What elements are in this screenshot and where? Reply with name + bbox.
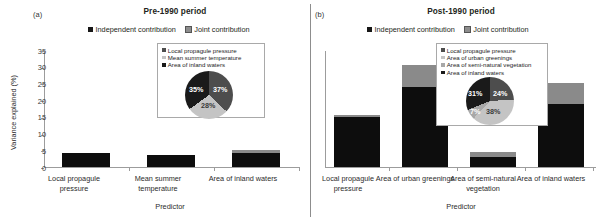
bar-segment-independent <box>147 155 195 167</box>
panel-b-pie-chart <box>466 77 514 125</box>
x-category-label-local-propagule-pressure: Local propagule pressure <box>34 174 114 193</box>
panel-b-inset-legend: Local propagule pressure Area of urban g… <box>441 47 531 77</box>
inset-legend-label-3: Area of inland waters <box>447 69 504 76</box>
inset-swatch-local-propagule-pressure-icon <box>441 48 445 52</box>
inset-swatch-local-propagule-pressure-icon <box>162 48 166 52</box>
pie-value-label-38: 38% <box>486 107 500 116</box>
bar-local-propagule-pressure <box>334 115 380 167</box>
x-category-label-area-of-inland-waters: Area of inland waters <box>511 174 591 184</box>
inset-legend-label-2: Area of semi-natural vegetation <box>447 61 532 68</box>
bar-segment-independent <box>334 117 380 167</box>
panel-a-inset-legend: Local propagule pressure Mean summer tem… <box>162 47 241 69</box>
panel-b-x-axis-title: Predictor <box>401 202 521 211</box>
panel-a-tag: (a) <box>33 10 42 19</box>
y-tick-label-10: 10 <box>30 130 46 139</box>
pie-value-label-24: 24% <box>493 89 507 98</box>
inset-legend-item-local-propagule-pressure: Local propagule pressure <box>441 47 531 54</box>
legend-swatch-joint-icon <box>464 26 471 33</box>
bar-area-of-inland-waters <box>232 150 280 167</box>
legend-label-joint: Joint contribution <box>473 25 528 34</box>
legend-label-joint: Joint contribution <box>194 25 249 34</box>
legend-swatch-independent-icon <box>88 27 93 32</box>
panel-a-inset: Local propagule pressure Mean summer tem… <box>157 43 265 118</box>
panel-b-title: Post-1990 period <box>396 7 526 16</box>
bar-segment-independent <box>470 157 516 167</box>
panel-b-inset: Local propagule pressure Area of urban g… <box>436 43 548 126</box>
inset-legend-item-area-of-urban-greenings: Area of urban greenings <box>441 54 531 61</box>
panel-a-pie-chart <box>185 71 233 119</box>
legend-swatch-independent-icon <box>367 27 372 32</box>
panel-b-tag: (b) <box>315 10 324 19</box>
legend-swatch-joint-icon <box>185 26 192 33</box>
legend-item-independent: Independent contribution <box>367 25 455 34</box>
inset-legend-label-1: Mean summer temperature <box>168 54 242 61</box>
pie-value-label-7: 7% <box>470 107 480 116</box>
panel-b-x-tick-2 <box>457 168 458 171</box>
inset-legend-label-1: Area of urban greenings <box>447 54 512 61</box>
bar-segment-independent <box>232 153 280 167</box>
y-tick-label-20: 20 <box>30 97 46 106</box>
panel-b-x-axis <box>325 167 596 168</box>
panel-b-x-tick-3 <box>525 168 526 171</box>
legend-item-joint: Joint contribution <box>185 25 250 34</box>
y-tick-label-0: 0 <box>30 164 46 173</box>
figure: (a) Pre-1990 period Independent contribu… <box>0 0 602 221</box>
panel-b-y-axis <box>325 51 326 168</box>
pie-value-label-28: 28% <box>201 101 215 110</box>
legend-item-independent: Independent contribution <box>88 25 176 34</box>
inset-swatch-area-of-inland-waters-icon <box>441 71 445 75</box>
pie-value-label-37: 37% <box>213 85 227 94</box>
panel-b-x-tick-1 <box>389 168 390 171</box>
y-tick-label-35: 35 <box>30 47 46 56</box>
panel-b-legend: Independent contribution Joint contribut… <box>367 25 529 34</box>
y-tick-label-30: 30 <box>30 63 46 72</box>
panel-a-x-tick-3 <box>299 168 300 171</box>
legend-item-joint: Joint contribution <box>464 25 529 34</box>
panel-b-x-tick-4 <box>593 168 594 171</box>
inset-legend-item-mean-summer-temperature: Mean summer temperature <box>162 54 241 61</box>
legend-label-independent: Independent contribution <box>375 25 455 34</box>
y-tick-label-5: 5 <box>30 147 46 156</box>
x-category-label-mean-summer-temperature: Mean summer temperature <box>118 174 198 193</box>
y-axis-title: Variance explained (%) <box>9 75 18 150</box>
inset-legend-label-0: Local propagule pressure <box>447 47 516 54</box>
panel-a-title: Pre-1990 period <box>115 7 235 16</box>
bar-local-propagule-pressure <box>62 153 110 167</box>
inset-legend-item-area-of-inland-waters: Area of inland waters <box>441 69 531 76</box>
inset-legend-item-area-of-semi-natural-vegetation: Area of semi-natural vegetation <box>441 61 531 68</box>
inset-swatch-mean-summer-temperature-icon <box>162 56 166 60</box>
panel-pre-1990: (a) Pre-1990 period Independent contribu… <box>0 0 311 221</box>
y-tick-label-15: 15 <box>30 113 46 122</box>
x-category-label-area-of-inland-waters: Area of inland waters <box>203 174 283 184</box>
bar-area-of-semi-natural-vegetation <box>470 152 516 167</box>
inset-swatch-area-of-urban-greenings-icon <box>441 56 445 60</box>
panel-a-x-tick-1 <box>129 168 130 171</box>
panel-a-legend: Independent contribution Joint contribut… <box>88 25 250 34</box>
inset-legend-label-2: Area of inland waters <box>168 61 225 68</box>
panel-a-x-axis-title: Predictor <box>105 202 235 211</box>
legend-label-independent: Independent contribution <box>96 25 176 34</box>
bar-mean-summer-temperature <box>147 155 195 167</box>
bar-segment-independent <box>62 153 110 167</box>
inset-swatch-area-of-semi-natural-vegetation-icon <box>441 63 445 67</box>
panel-a-x-tick-2 <box>214 168 215 171</box>
pie-value-label-35: 35% <box>189 85 203 94</box>
inset-swatch-area-of-inland-waters-icon <box>162 63 166 67</box>
pie-value-label-31: 31% <box>468 89 482 98</box>
panel-a-x-axis <box>44 167 300 168</box>
inset-legend-item-local-propagule-pressure: Local propagule pressure <box>162 47 241 54</box>
panel-post-1990: (b) Post-1990 period Independent contrib… <box>311 0 602 221</box>
y-tick-label-25: 25 <box>30 80 46 89</box>
inset-legend-item-area-of-inland-waters: Area of inland waters <box>162 61 241 68</box>
inset-legend-label-0: Local propagule pressure <box>168 47 237 54</box>
